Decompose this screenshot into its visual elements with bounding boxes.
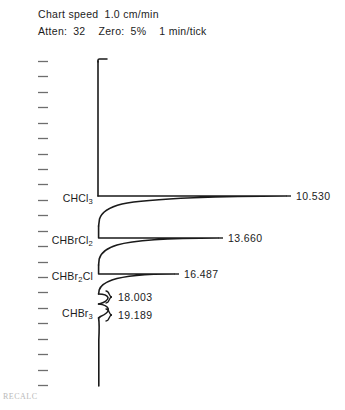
chromatogram-page: Chart speed1.0 cm/min Atten:32Zero:5%1 m… (0, 0, 345, 410)
compound-label-chcl3-text: CHCl (63, 192, 89, 204)
chromatogram-plot (0, 0, 345, 410)
time-axis-ticks (38, 62, 48, 386)
compound-label-chcl3-sub: 3 (89, 197, 93, 206)
compound-label-chcl3: CHCl3 (63, 192, 93, 204)
retention-time-16487: 16.487 (184, 268, 219, 280)
compound-label-chbr2cl-text: CHBr (52, 270, 78, 282)
peak-chbrcl2 (99, 226, 218, 265)
recalc-footer: RECALC (3, 392, 38, 401)
compound-label-chbr3-sub: 3 (89, 312, 93, 321)
retention-time-18003: 18.003 (118, 291, 153, 303)
chbr3-brace (106, 309, 112, 321)
compound-label-chbrcl2: CHBrCl2 (52, 234, 93, 246)
compound-label-chbr2cl: CHBr2Cl (52, 270, 93, 282)
compound-label-chbr3: CHBr3 (62, 307, 93, 319)
peak-chbr3-second (99, 304, 109, 318)
chromatogram-svg (0, 0, 345, 410)
trace-baseline-lower (99, 318, 100, 386)
peak-chbr2cl (99, 265, 174, 294)
compound-label-chbr2cl-sub: 2 (78, 275, 82, 284)
trace-start-hook (98, 59, 107, 62)
compound-label-chbr3-text: CHBr (62, 307, 88, 319)
detector-trace (98, 59, 286, 386)
compound-label-chbrcl2-text: CHBrCl (52, 234, 89, 246)
peak-chcl3 (98, 196, 286, 226)
compound-label-chbr2cl-tail: Cl (83, 270, 93, 282)
compound-label-chbrcl2-sub: 2 (89, 239, 93, 248)
retention-time-19189: 19.189 (118, 309, 153, 321)
retention-time-10530: 10.530 (296, 190, 331, 202)
retention-time-13660: 13.660 (228, 232, 263, 244)
